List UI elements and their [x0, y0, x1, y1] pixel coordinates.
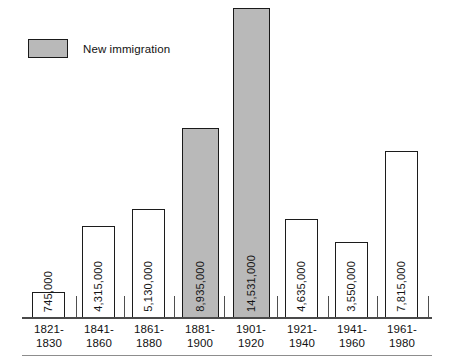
x-axis-label-2: 1841-1860: [73, 322, 125, 350]
bar-value-label: 8,935,000: [195, 261, 206, 312]
bar-1961-1980: 7,815,000: [385, 151, 418, 318]
x-axis-label-line: 1980: [376, 336, 428, 350]
x-axis-label-line: 1861-: [123, 322, 175, 336]
plot-area: 745,0004,315,0005,130,0008,935,00014,531…: [0, 0, 466, 318]
x-axis-label-1: 1821-1830: [23, 322, 75, 350]
category-separator-tick-7: [377, 296, 378, 318]
x-axis-label-line: 1941-: [326, 322, 378, 336]
x-axis-label-line: 1961-: [376, 322, 428, 336]
bar-1821-1830: 745,000: [32, 292, 65, 318]
x-axis-label-3: 1861-1880: [123, 322, 175, 350]
bar-1941-1960: 3,550,000: [335, 242, 368, 318]
x-axis-label-line: 1900: [174, 336, 226, 350]
x-axis-label-line: 1901-: [225, 322, 277, 336]
bar-value-label: 5,130,000: [143, 261, 154, 312]
bar-value-label: 7,815,000: [396, 261, 407, 312]
category-separator-tick-2: [124, 296, 125, 318]
bar-1841-1860: 4,315,000: [82, 226, 115, 318]
category-separator-tick-4: [224, 296, 225, 318]
bar-1901-1920: 14,531,000: [233, 8, 270, 318]
category-separator-tick-5: [277, 296, 278, 318]
category-separator-tick-8: [428, 296, 429, 318]
footer-rule: [22, 355, 432, 356]
x-axis-label-line: 1920: [225, 336, 277, 350]
category-separator-tick-6: [328, 296, 329, 318]
bar-value-label: 4,635,000: [296, 261, 307, 312]
x-axis-label-line: 1841-: [73, 322, 125, 336]
x-axis-label-line: 1960: [326, 336, 378, 350]
bar-1861-1880: 5,130,000: [132, 209, 165, 318]
x-axis-baseline: [22, 317, 432, 319]
bar-value-label: 745,000: [43, 271, 54, 312]
bar-value-label: 3,550,000: [346, 261, 357, 312]
x-axis-label-line: 1821-: [23, 322, 75, 336]
x-axis-label-line: 1830: [23, 336, 75, 350]
x-axis-label-5: 1901-1920: [225, 322, 277, 350]
x-axis-label-4: 1881-1900: [174, 322, 226, 350]
bar-value-label: 4,315,000: [93, 261, 104, 312]
x-axis-label-line: 1940: [276, 336, 328, 350]
x-axis-label-line: 1880: [123, 336, 175, 350]
bar-1881-1900: 8,935,000: [182, 128, 219, 318]
bar-value-label: 14,531,000: [246, 255, 257, 312]
x-axis-label-6: 1921-1940: [276, 322, 328, 350]
x-axis-label-7: 1941-1960: [326, 322, 378, 350]
category-separator-tick-1: [76, 296, 77, 318]
immigration-bar-chart: New immigration 745,0004,315,0005,130,00…: [0, 0, 466, 362]
x-axis-label-line: 1881-: [174, 322, 226, 336]
x-axis-label-line: 1860: [73, 336, 125, 350]
category-separator-tick-3: [174, 296, 175, 318]
x-axis-label-line: 1921-: [276, 322, 328, 336]
x-axis-label-8: 1961-1980: [376, 322, 428, 350]
bar-1921-1940: 4,635,000: [285, 219, 318, 318]
